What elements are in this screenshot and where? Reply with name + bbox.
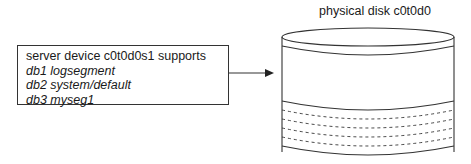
arrow-icon [229,69,274,77]
physical-disk-cylinder [282,28,454,155]
diagram-graphics [0,0,471,164]
